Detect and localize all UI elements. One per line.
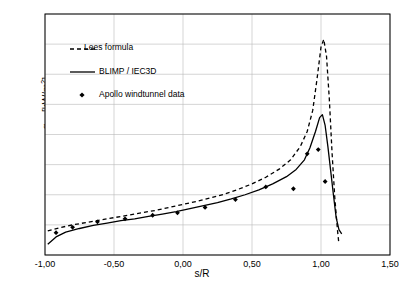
legend-label-blimp: BLIMP / IEC3D [99, 66, 156, 76]
chart-container: qgw [kW/m2] s/R 050100150200250300350400… [0, 0, 404, 286]
legend-label-apollo: Apollo windtunnel data [99, 89, 185, 99]
plot-area [0, 0, 404, 286]
legend-label-lees: Lees formula [84, 42, 133, 52]
